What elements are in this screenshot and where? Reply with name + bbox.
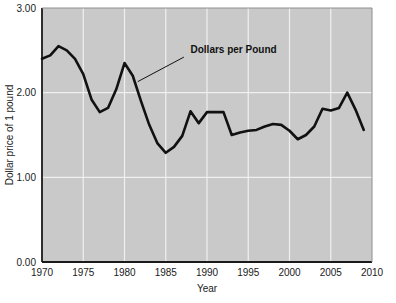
x-tick-label: 2005 xyxy=(320,267,343,278)
y-axis-title: Dollar price of 1 pound xyxy=(4,85,15,186)
x-axis-tick-labels: 197019751980198519901995200020052010 xyxy=(31,267,384,278)
x-tick-label: 1970 xyxy=(31,267,54,278)
x-tick-label: 1980 xyxy=(113,267,136,278)
x-tick-label: 2000 xyxy=(278,267,301,278)
chart-container: 0.001.002.003.00 19701975198019851990199… xyxy=(0,0,396,303)
x-axis-title: Year xyxy=(197,283,218,294)
y-tick-label: 3.00 xyxy=(17,3,37,14)
annotation-label-dollars-per-pound: Dollars per Pound xyxy=(191,44,277,55)
y-tick-label: 2.00 xyxy=(17,87,37,98)
x-tick-label: 1975 xyxy=(72,267,95,278)
line-chart: 0.001.002.003.00 19701975198019851990199… xyxy=(0,0,396,303)
y-tick-label: 0.00 xyxy=(17,257,37,268)
x-tick-label: 1990 xyxy=(196,267,219,278)
x-tick-label: 2010 xyxy=(361,267,384,278)
y-tick-label: 1.00 xyxy=(17,172,37,183)
x-tick-label: 1985 xyxy=(155,267,178,278)
x-tick-label: 1995 xyxy=(237,267,260,278)
